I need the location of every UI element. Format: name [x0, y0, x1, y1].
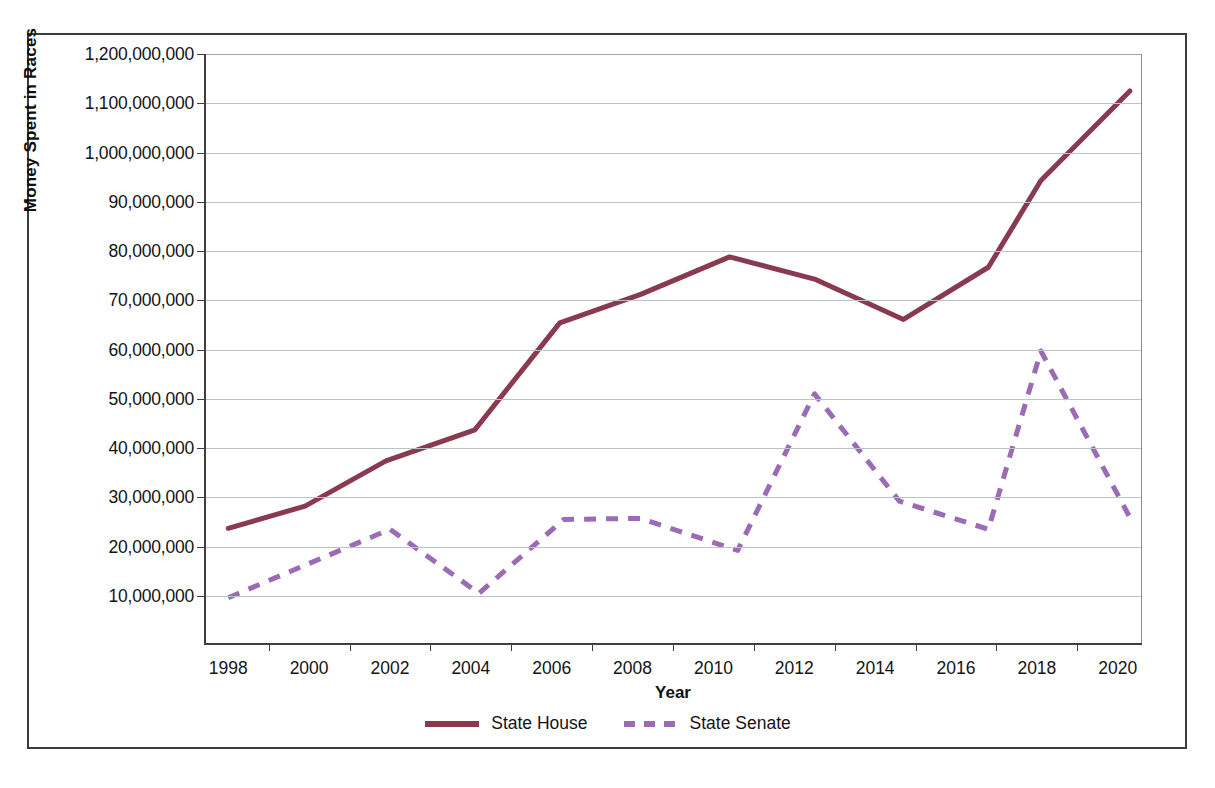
y-axis-tick	[197, 54, 204, 55]
y-axis-labels: 10,000,00020,000,00030,000,00040,000,000…	[29, 35, 204, 664]
y-axis-tick-label: 60,000,000	[108, 339, 194, 360]
legend-item-state-house[interactable]: State House	[423, 713, 587, 734]
y-axis-tick	[197, 399, 204, 400]
y-axis-tick	[197, 596, 204, 597]
plot-area	[204, 54, 1142, 645]
x-axis-tick-label: 2016	[937, 658, 976, 679]
x-axis-tick-label: 2020	[1098, 658, 1137, 679]
y-axis-tick-label: 1,000,000,000	[85, 142, 194, 163]
x-axis-tick-label: 2010	[694, 658, 733, 679]
gridline	[204, 596, 1142, 597]
x-axis-tick	[916, 644, 917, 651]
x-axis-tick	[430, 644, 431, 651]
x-axis-tick	[835, 644, 836, 651]
x-axis-tick-label: 2000	[290, 658, 329, 679]
x-axis-tick	[350, 644, 351, 651]
gridline	[204, 497, 1142, 498]
x-axis-title: Year	[204, 683, 1142, 703]
legend-swatch-solid-line	[423, 718, 481, 730]
chart-figure: Money Spent in Races 10,000,00020,000,00…	[27, 33, 1187, 749]
y-axis-tick	[197, 153, 204, 154]
y-axis-tick-label: 10,000,000	[108, 585, 194, 606]
legend-label-state-senate: State Senate	[690, 713, 791, 734]
y-axis-tick-label: 20,000,000	[108, 536, 194, 557]
x-axis-tick	[996, 644, 997, 651]
gridline	[204, 251, 1142, 252]
x-axis-tick	[269, 644, 270, 651]
y-axis-tick-label: 50,000,000	[108, 388, 194, 409]
axis-left	[204, 54, 206, 645]
axis-right	[1141, 54, 1142, 645]
y-axis-tick-label: 1,100,000,000	[85, 93, 194, 114]
x-axis-tick	[673, 644, 674, 651]
gridline	[204, 547, 1142, 548]
x-axis-tick-label: 1998	[209, 658, 248, 679]
x-axis-tick-label: 2012	[775, 658, 814, 679]
gridline	[204, 350, 1142, 351]
gridline	[204, 448, 1142, 449]
y-axis-tick	[197, 103, 204, 104]
y-axis-tick	[197, 300, 204, 301]
y-axis-tick	[197, 251, 204, 252]
gridline	[204, 103, 1142, 104]
legend-label-state-house: State House	[491, 713, 587, 734]
y-axis-tick	[197, 448, 204, 449]
x-axis-tick	[592, 644, 593, 651]
y-axis-tick	[197, 202, 204, 203]
y-axis-tick-label: 30,000,000	[108, 487, 194, 508]
axis-top	[204, 54, 1142, 55]
chart-legend: State House State Senate	[29, 713, 1185, 734]
x-axis-tick-label: 2006	[532, 658, 571, 679]
y-axis-tick-label: 70,000,000	[108, 290, 194, 311]
legend-swatch-dashed-line	[622, 718, 680, 730]
y-axis-tick	[197, 350, 204, 351]
x-axis-tick-label: 2008	[613, 658, 652, 679]
x-axis-labels: 1998200020022004200620082010201220142016…	[204, 650, 1142, 680]
y-axis-tick-label: 40,000,000	[108, 438, 194, 459]
x-axis-tick	[1077, 644, 1078, 651]
gridlines	[204, 54, 1142, 645]
x-axis-tick	[511, 644, 512, 651]
x-axis-tick-label: 2018	[1017, 658, 1056, 679]
x-axis-tick-label: 2004	[451, 658, 490, 679]
y-axis-tick-label: 1,200,000,000	[85, 44, 194, 65]
legend-item-state-senate[interactable]: State Senate	[622, 713, 791, 734]
y-axis-tick-label: 90,000,000	[108, 191, 194, 212]
x-axis-tick-label: 2014	[856, 658, 895, 679]
y-axis-tick	[197, 547, 204, 548]
gridline	[204, 300, 1142, 301]
gridline	[204, 202, 1142, 203]
y-axis-tick	[197, 497, 204, 498]
y-axis-tick-label: 80,000,000	[108, 241, 194, 262]
gridline	[204, 153, 1142, 154]
gridline	[204, 399, 1142, 400]
x-axis-tick-label: 2002	[371, 658, 410, 679]
x-axis-tick	[754, 644, 755, 651]
